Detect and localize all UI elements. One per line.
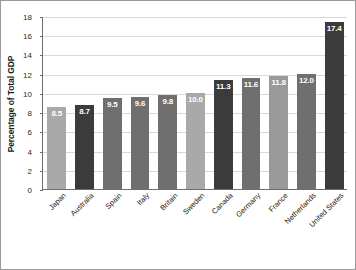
bar-value-label: 8.5 — [47, 109, 66, 118]
bar-united-states: 17.4 — [325, 22, 344, 189]
x-axis-label-text: Canada — [210, 191, 235, 216]
x-axis-label-text: Italy — [135, 191, 151, 207]
x-axis-labels: JapanAustraliaSpainItalyBritainSwedenCan… — [42, 191, 347, 267]
bar-chart-figure: Percentage of Total GDP 024681012141618 … — [0, 0, 356, 270]
y-tick-label: 16 — [18, 32, 32, 41]
y-tick-label: 8 — [18, 109, 32, 118]
y-tick-label: 14 — [18, 51, 32, 60]
plot-area: 024681012141618 8.58.79.59.69.810.011.31… — [42, 17, 347, 190]
x-axis-label-text: Britain — [158, 191, 179, 212]
x-axis-label-text: France — [267, 191, 290, 214]
bar-value-label: 9.5 — [103, 100, 122, 109]
bar-germany: 11.6 — [242, 78, 261, 189]
bar-value-label: 9.6 — [131, 99, 150, 108]
bar-spain: 9.5 — [103, 98, 122, 189]
bar-value-label: 10.0 — [186, 95, 205, 104]
bars-layer: 8.58.79.59.69.810.011.311.611.812.017.4 — [43, 17, 347, 189]
y-tick-label: 18 — [18, 13, 32, 22]
y-tick-label: 2 — [18, 166, 32, 175]
y-tick-label: 6 — [18, 128, 32, 137]
bar-japan: 8.5 — [47, 107, 66, 189]
bar-sweden: 10.0 — [186, 93, 205, 189]
bar-australia: 8.7 — [75, 105, 94, 189]
bar-italy: 9.6 — [131, 97, 150, 189]
bar-netherlands: 12.0 — [297, 74, 316, 189]
y-tick-label: 4 — [18, 147, 32, 156]
bar-britain: 9.8 — [158, 95, 177, 189]
bar-value-label: 9.8 — [158, 97, 177, 106]
bar-france: 11.8 — [269, 76, 288, 189]
bar-value-label: 12.0 — [297, 76, 316, 85]
bar-value-label: 11.6 — [242, 80, 261, 89]
y-tick-label: 10 — [18, 89, 32, 98]
x-axis-label-text: Sweden — [181, 191, 207, 217]
bar-canada: 11.3 — [214, 80, 233, 189]
bar-value-label: 8.7 — [75, 107, 94, 116]
x-axis-label-text: Australia — [69, 191, 96, 218]
bar-value-label: 17.4 — [325, 24, 344, 33]
bar-value-label: 11.3 — [214, 82, 233, 91]
x-axis-label-text: Japan — [47, 191, 68, 212]
x-axis-label-text: Spain — [104, 191, 124, 211]
y-tick-label: 0 — [18, 186, 32, 195]
bar-value-label: 11.8 — [269, 78, 288, 87]
x-axis-label-text: Germany — [234, 191, 262, 219]
y-tick-label: 12 — [18, 70, 32, 79]
y-axis-title-text: Percentage of Total GDP — [6, 55, 16, 152]
